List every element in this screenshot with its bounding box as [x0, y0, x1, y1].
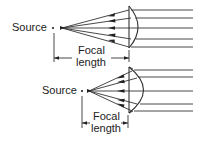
bottom-focal-length-dimension: Focal length	[82, 96, 128, 134]
bottom-length-label: length	[91, 122, 121, 134]
bottom-lens	[129, 67, 144, 113]
top-lens	[129, 6, 138, 48]
top-parallel-rays	[131, 10, 193, 47]
bottom-parallel-rays	[134, 70, 193, 111]
top-source-dot	[52, 27, 54, 29]
bottom-focal-label: Focal	[93, 110, 120, 122]
focal-length-diagram: Source	[0, 0, 201, 145]
bottom-source-dot	[81, 90, 83, 92]
bottom-ray-arrows-icon	[117, 74, 125, 107]
bottom-source-label: Source	[42, 84, 77, 96]
bottom-converging-rays	[87, 71, 143, 111]
top-ray-arrows-icon	[108, 13, 116, 43]
top-source-label: Source	[12, 21, 47, 33]
top-length-label: length	[76, 56, 106, 68]
bottom-diagram: Source	[42, 67, 193, 134]
top-focal-label: Focal	[78, 44, 105, 56]
top-focal-length-dimension: Focal length	[54, 33, 129, 68]
top-converging-rays	[60, 10, 138, 47]
top-diagram: Source	[12, 6, 193, 68]
